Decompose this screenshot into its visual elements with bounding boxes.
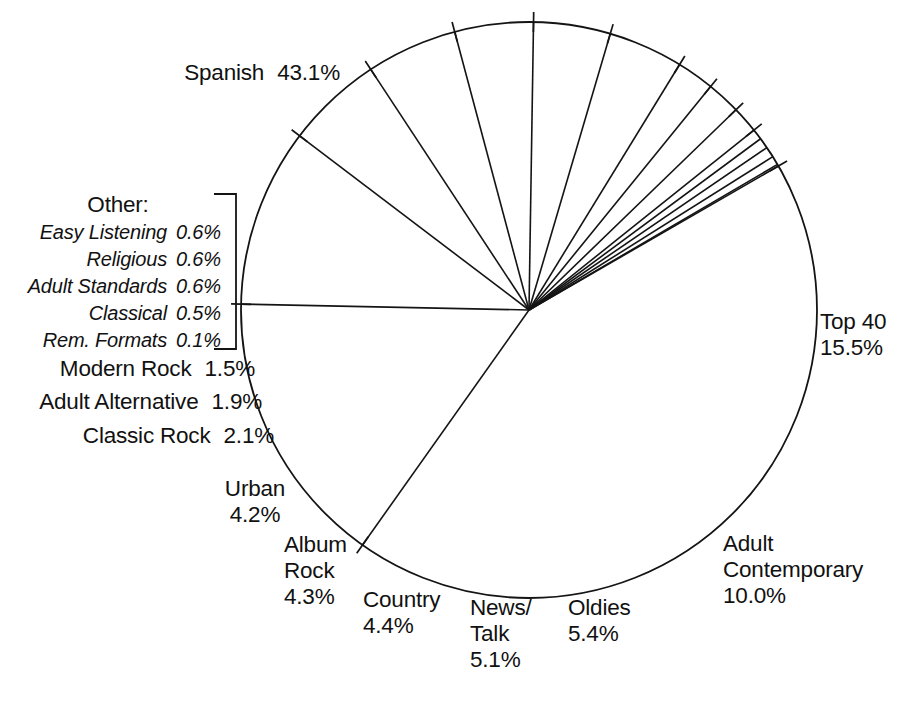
pie-divider-adult-contemporary [241, 304, 529, 310]
pie-boundary-ticks [231, 12, 787, 553]
slice-label-spanish: Spanish 43.1% [60, 60, 340, 86]
pie-divider-religious [529, 139, 761, 310]
pie-tick-mark [704, 79, 717, 95]
other-row-pct: 0.6% [176, 219, 232, 246]
slice-pct-adult-alternative: 1.9% [212, 389, 262, 414]
pie-tick-mark [292, 130, 308, 142]
slice-label-adult-alternative: Adult Alternative 1.9% [12, 389, 262, 415]
pie-divider-news-talk [371, 69, 529, 310]
other-group-title: Other: [26, 190, 232, 219]
slice-pct-oldies: 5.4% [568, 621, 688, 647]
pie-divider-modern-rock [529, 110, 736, 310]
slice-label-album-rock: Album Rock 4.3% [284, 532, 404, 610]
pie-divider-classic-rock [529, 65, 680, 310]
slice-pct-country: 4.4% [363, 613, 493, 639]
slice-name-top-40: Top 40 [820, 309, 909, 335]
other-row-name: Rem. Formats [43, 329, 167, 351]
other-row-name: Easy Listening [40, 221, 167, 243]
slice-pct-news-talk: 5.1% [470, 647, 580, 673]
slice-name-modern-rock: Modern Rock [60, 356, 192, 381]
other-row-pct: 0.6% [176, 273, 232, 300]
slice-pct-urban: 4.2% [195, 502, 315, 528]
pie-divider-oldies [300, 136, 529, 310]
pie-divider-easy-listening [529, 130, 754, 310]
other-group-row: Rem. Formats0.1% [26, 327, 232, 354]
slice-pct-modern-rock: 1.5% [205, 356, 255, 381]
slice-pct-adult-contemporary: 10.0% [723, 583, 909, 609]
slice-name-oldies: Oldies [568, 595, 688, 621]
slice-pct-classic-rock: 2.1% [224, 423, 274, 448]
other-row-pct: 0.5% [176, 300, 232, 327]
other-row-pct: 0.1% [176, 327, 232, 354]
other-group-row: Religious0.6% [26, 246, 232, 273]
slice-label-classic-rock: Classic Rock 2.1% [26, 423, 274, 449]
slice-pct-spanish: 43.1% [277, 60, 340, 85]
other-group-label-block: Other: Easy Listening0.6%Religious0.6%Ad… [26, 190, 232, 354]
slice-name-urban: Urban [195, 476, 315, 502]
other-group-rows: Easy Listening0.6%Religious0.6%Adult Sta… [26, 219, 232, 354]
slice-pct-top-40: 15.5% [820, 335, 909, 361]
slice-name-adult-contemporary-line2: Contemporary [723, 557, 909, 583]
pie-divider-country [455, 32, 529, 310]
slice-label-modern-rock: Modern Rock 1.5% [20, 356, 255, 382]
slice-name-adult-alternative: Adult Alternative [39, 389, 198, 414]
pie-divider-rem-formats [529, 164, 778, 310]
other-row-name: Adult Standards [28, 275, 167, 297]
slice-label-urban: Urban 4.2% [195, 476, 315, 528]
pie-divider-top-40 [363, 310, 529, 545]
pie-divider-album-rock [529, 22, 534, 310]
pie-tick-mark [674, 56, 684, 73]
slice-label-adult-contemporary: Adult Contemporary 10.0% [723, 531, 909, 609]
pie-chart: Spanish 43.1% Top 40 15.5% Adult Contemp… [0, 0, 909, 704]
slice-label-oldies: Oldies 5.4% [568, 595, 688, 647]
slice-name-adult-contemporary-line1: Adult [723, 531, 909, 557]
slice-label-top-40: Top 40 15.5% [820, 309, 909, 361]
slice-name-album-rock-line2: Rock [284, 558, 404, 584]
pie-divider-urban [529, 34, 610, 310]
other-group-row: Classical0.5% [26, 300, 232, 327]
pie-slice-dividers [241, 22, 778, 545]
slice-pct-album-rock: 4.3% [284, 584, 404, 610]
other-group-row: Adult Standards0.6% [26, 273, 232, 300]
pie-divider-adult-standards [529, 148, 767, 310]
pie-tick-mark [365, 61, 376, 78]
pie-divider-classical [529, 157, 773, 310]
other-group-row: Easy Listening0.6% [26, 219, 232, 246]
other-row-name: Classical [89, 302, 167, 324]
pie-divider-adult-alternative [529, 86, 711, 310]
slice-name-album-rock-line1: Album [284, 532, 404, 558]
other-row-pct: 0.6% [176, 246, 232, 273]
pie-tick-mark [746, 124, 762, 136]
slice-name-classic-rock: Classic Rock [83, 423, 211, 448]
pie-tick-mark [770, 161, 787, 171]
other-row-name: Religious [87, 248, 167, 270]
slice-name-spanish: Spanish [184, 60, 264, 85]
